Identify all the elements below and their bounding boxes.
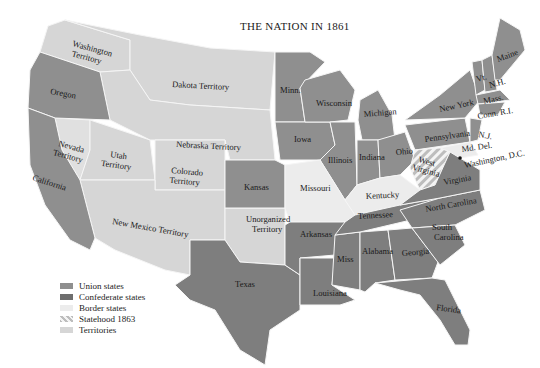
legend-item-statehood: Statehood 1863 [60,313,145,324]
label-louisiana: Louisiana [313,288,347,298]
region-indiana [357,140,380,185]
label-illinois: Illinois [328,155,353,165]
label-missouri: Missouri [300,183,331,193]
map-legend: Union states Confederate states Border s… [60,280,145,335]
legend-item-union: Union states [60,280,145,291]
dc-star-icon [458,156,462,160]
swatch-territories [60,327,73,333]
label-kansas: Kansas [244,182,269,192]
label-indiana: Indiana [359,152,385,162]
label-wisconsin: Wisconsin [316,98,353,108]
swatch-statehood [60,316,73,322]
legend-item-border: Border states [60,302,145,313]
label-miss: Miss [337,254,354,264]
label-iowa: Iowa [294,134,311,144]
label-colorado: ColoradoTerritory [169,165,204,188]
swatch-union [60,283,73,289]
label-texas: Texas [235,279,256,289]
legend-item-territories: Territories [60,324,145,335]
label-ohio: Ohio [395,146,413,157]
legend-item-confederate: Confederate states [60,291,145,302]
label-tennessee: Tennessee [358,209,394,221]
label-arkansas: Arkansas [300,229,333,239]
swatch-border [60,305,73,311]
label-minn: Minn. [280,85,301,95]
label-alabama: Alabama [362,246,393,256]
swatch-confederate [60,294,73,300]
label-south-carolina: SouthCarolina [432,222,464,242]
label-kentucky: Kentucky [366,189,401,201]
